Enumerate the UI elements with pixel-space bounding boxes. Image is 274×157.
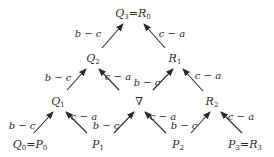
edge-label: b − c: [9, 121, 36, 131]
node-R2: R2: [206, 96, 219, 109]
triangular-network-diagram: b − cc − ab − cc − ab − cc − ab − cc − a…: [0, 0, 274, 157]
node-Q1: Q1: [51, 96, 65, 109]
arrow-Q0P0-to-Q1: [34, 112, 53, 133]
edge-label: b − c: [171, 121, 198, 131]
edge-label: b − c: [134, 78, 161, 88]
node-Q3R0: Q3=R0: [115, 8, 150, 21]
edge-label: b − c: [93, 121, 120, 131]
edge-label: b − c: [75, 29, 102, 39]
arrow-Q2-to-Q3R0: [102, 24, 123, 48]
edge-label: c − a: [228, 112, 254, 122]
edge-label: b − c: [45, 73, 72, 83]
node-P1: P1: [92, 139, 104, 152]
node-Q2: Q2: [86, 53, 100, 66]
edge-label: c − a: [195, 71, 221, 81]
node-P2: P2: [172, 139, 184, 152]
node-R1: R1: [169, 53, 182, 66]
node-nabla: ∇: [135, 96, 143, 107]
edge-label: c − a: [105, 72, 131, 82]
node-P3R3: P3=R3: [228, 139, 262, 152]
node-Q0P0: Q0=P0: [13, 139, 48, 152]
edge-label: c − a: [159, 29, 185, 39]
